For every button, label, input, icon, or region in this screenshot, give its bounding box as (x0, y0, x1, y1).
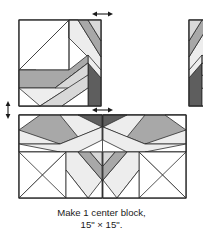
feather-band (202, 88, 203, 106)
quilt-diagram: Make 1 center block, 15" × 15". (0, 0, 203, 238)
arrow-head-right (108, 108, 113, 113)
caption-line-1: Make 1 center block, (57, 207, 146, 218)
bottom-right-half (103, 115, 186, 198)
arrow-head-down (6, 114, 11, 119)
quilt-illustration: Make 1 center block, 15" × 15". (0, 0, 203, 238)
arrow-head-right (108, 12, 113, 17)
seam-arrow-top-center (92, 12, 113, 17)
seam-arrow-left-center (6, 101, 11, 119)
top-left-block (19, 20, 101, 106)
top-right-block (189, 20, 203, 106)
bottom-left-half (19, 115, 102, 198)
seam-arrow-bottom-center (92, 108, 113, 113)
bottom-block (19, 115, 186, 198)
caption-line-2: 15" × 15". (81, 219, 123, 230)
arrow-head-up (6, 101, 11, 106)
arrow-head-left (92, 12, 97, 17)
arrow-head-left (92, 108, 97, 113)
